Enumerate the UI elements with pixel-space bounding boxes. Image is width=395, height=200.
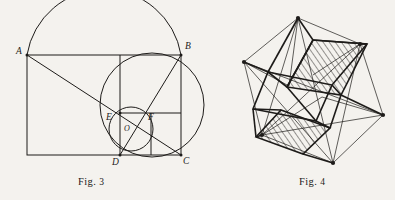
fig3-label-O: O [124, 124, 130, 133]
fig4-caption: Fig. 4 [299, 176, 325, 187]
fig3-label-D: D [111, 157, 119, 167]
fig3-caption: Fig. 3 [78, 176, 104, 187]
fig3-vertex-dot [119, 112, 122, 115]
fig3-vertex-dot [119, 154, 122, 157]
fig3-caption-number: 3 [99, 177, 104, 187]
fig4-hatched-rectangle-upper [287, 40, 367, 95]
fig4-caption-number: 4 [320, 177, 325, 187]
fig3-vertex-dot [26, 54, 29, 57]
fig3-vertex-dot [180, 54, 183, 57]
fig3-small-circle [109, 107, 153, 151]
fig3-caption-prefix: Fig. [78, 176, 96, 187]
fig4-caption-prefix: Fig. [299, 176, 317, 187]
figure-plate: A B C D E F O [0, 0, 395, 200]
fig3-label-A: A [15, 46, 22, 56]
figures-canvas: A B C D E F O [0, 0, 395, 200]
fig3-label-E: E [105, 112, 112, 122]
fig3-semicircle [27, 0, 181, 55]
fig3-drawing [26, 0, 205, 157]
fig3-label-F: F [147, 112, 154, 122]
fig3-diagonal-ac [27, 55, 181, 155]
fig4-drawing [242, 16, 385, 165]
fig3-large-circle [100, 53, 204, 157]
fig3-label-B: B [185, 41, 191, 51]
fig3-label-C: C [183, 156, 190, 166]
